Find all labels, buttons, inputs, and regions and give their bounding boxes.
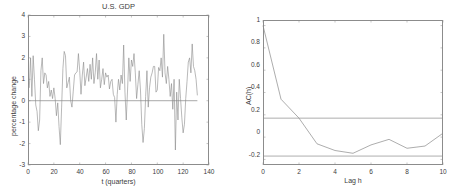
matlab-figure: U.S. GDP percentage change t (quarters) … <box>0 0 458 193</box>
acf-series-line <box>263 26 443 154</box>
acf-tickmarks <box>263 20 443 165</box>
acf-plot-svg <box>0 0 458 193</box>
